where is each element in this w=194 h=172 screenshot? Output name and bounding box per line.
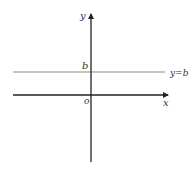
y-axis-label: y xyxy=(79,10,86,21)
x-axis-label: x xyxy=(163,97,169,108)
origin-label: o xyxy=(84,96,90,106)
line-equation-label: y=b xyxy=(169,68,189,78)
intercept-label: b xyxy=(82,60,88,71)
coordinate-diagram: y b o y=b x xyxy=(0,0,194,172)
